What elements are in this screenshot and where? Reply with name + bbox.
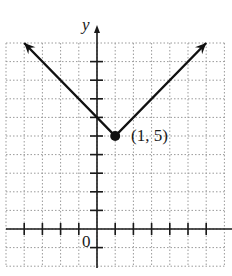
vertex-label: (1, 5) xyxy=(131,126,168,145)
y-axis-label: y xyxy=(80,15,90,34)
y-axis-arrow-icon xyxy=(94,25,100,33)
origin-label: 0 xyxy=(82,232,91,251)
vertex-dot xyxy=(110,131,120,141)
graph: y 0 (1, 5) xyxy=(0,0,232,276)
vertex-point xyxy=(110,131,120,141)
